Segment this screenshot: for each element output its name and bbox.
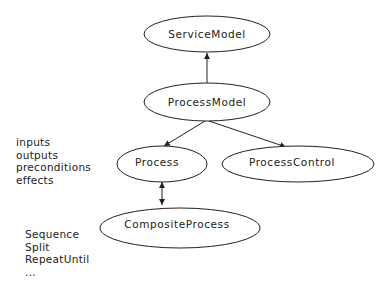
node-composite-process: CompositeProcess <box>100 208 260 248</box>
construct-item: RepeatUntil <box>25 253 90 266</box>
construct-item: Split <box>25 241 90 254</box>
node-process-model: ProcessModel <box>144 83 270 121</box>
attribute-item: outputs <box>16 149 91 162</box>
node-label: ProcessModel <box>168 96 247 108</box>
construct-item: Sequence <box>25 228 90 241</box>
edge-processmodel-to-process <box>164 121 205 146</box>
edge-processmodel-to-processcontrol <box>209 121 286 147</box>
attribute-item: preconditions <box>16 161 91 174</box>
construct-item: ... <box>25 266 90 279</box>
node-service-model: ServiceModel <box>144 16 270 52</box>
composite-constructs-list: Sequence Split RepeatUntil ... <box>25 228 90 278</box>
node-label: Process <box>135 156 179 168</box>
node-label: ProcessControl <box>249 156 335 168</box>
attribute-item: inputs <box>16 136 91 149</box>
node-label: CompositeProcess <box>124 218 229 230</box>
node-process: Process <box>117 146 207 182</box>
node-process-control: ProcessControl <box>222 146 374 182</box>
node-label: ServiceModel <box>168 28 246 40</box>
process-attributes-list: inputs outputs preconditions effects <box>16 136 91 186</box>
attribute-item: effects <box>16 174 91 187</box>
